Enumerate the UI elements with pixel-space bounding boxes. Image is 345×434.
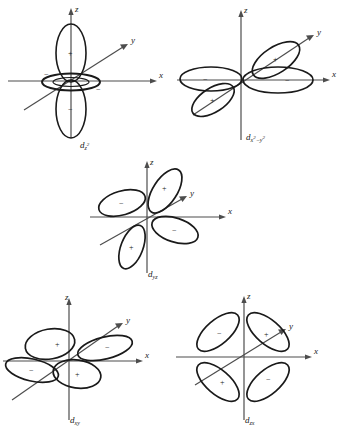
axis-label-y: y <box>130 35 135 45</box>
sign-lobe-upper-right: + <box>162 184 167 193</box>
sign-torus-right: − <box>96 85 101 94</box>
axis-label-z: z <box>149 157 154 167</box>
sign-lobe-upper-right: + <box>273 55 278 64</box>
sign-lobe-upper-left: − <box>119 199 124 208</box>
axis-label-x: x <box>227 206 232 216</box>
orbital-panel-dxy: + − − + z y x dxy <box>0 290 173 434</box>
axis-label-x: x <box>331 69 336 79</box>
sign-lobe-lower-left: + <box>210 96 215 105</box>
axis-z-arrowhead <box>144 161 149 168</box>
axis-label-x: x <box>313 346 318 356</box>
sign-lobe-left: − <box>29 366 34 375</box>
sign-lobe-lower-right: − <box>172 226 177 235</box>
axis-y-arrowhead <box>179 196 187 202</box>
orbital-diagram-dz2: + − − − z y x dz2 <box>0 0 173 152</box>
axis-x-arrowhead <box>323 77 330 82</box>
axis-label-z: z <box>243 5 248 15</box>
orbital-label-dxy: dxy <box>70 415 80 426</box>
sign-lobe-upper-right: + <box>264 330 269 339</box>
sign-lobe-up: + <box>68 49 73 58</box>
axis-label-x: x <box>144 350 149 360</box>
axis-z-arrowhead <box>238 10 243 17</box>
sign-lobe-right-y: − <box>105 343 110 352</box>
axis-label-x: x <box>158 70 163 80</box>
orbital-label-dzx: dzx <box>245 415 255 426</box>
orbital-diagram-dx2-y2: + + − − z y x dx2−y2 <box>173 0 345 152</box>
sign-lobe-down: − <box>68 105 73 114</box>
axis-y-arrowhead <box>120 44 128 50</box>
axis-y-arrowhead <box>115 323 123 329</box>
axis-label-y: y <box>288 321 293 331</box>
sign-lobe-lower-left: + <box>220 378 225 387</box>
orbital-label-dz2: dz2 <box>80 140 90 151</box>
axis-z-arrowhead <box>68 8 73 15</box>
axis-label-y: y <box>125 315 130 325</box>
axis-x-arrowhead <box>219 214 226 219</box>
axis-x-arrowhead <box>150 78 157 83</box>
orbital-panel-dz2: + − − − z y x dz2 <box>0 0 173 152</box>
sign-lobe-lower-center: + <box>75 370 80 379</box>
sign-torus-left: − <box>44 70 49 79</box>
axis-y-line <box>24 47 123 110</box>
axis-label-z: z <box>74 4 79 14</box>
orbital-label-dx2-y2: dx2−y2 <box>246 132 265 143</box>
orbital-panel-dyz: + − − + z y x dyz <box>86 155 259 283</box>
axis-label-y: y <box>316 27 321 37</box>
sign-lobe-upper-left: − <box>217 329 222 338</box>
orbital-label-dyz: dyz <box>148 269 158 280</box>
axis-x-arrowhead <box>305 354 312 359</box>
sign-lobe-right: − <box>285 76 290 85</box>
axis-label-z: z <box>64 292 69 302</box>
axis-label-y: y <box>189 188 194 198</box>
axis-x-arrowhead <box>136 358 143 363</box>
orbital-panel-dx2-y2: + + − − z y x dx2−y2 <box>173 0 345 152</box>
sign-lobe-upper-left: + <box>55 340 60 349</box>
axis-y-arrowhead <box>306 35 314 41</box>
sign-lobe-lower-right: − <box>266 375 271 384</box>
sign-lobe-lower-left: + <box>129 243 134 252</box>
orbital-diagram-dyz: + − − + z y x dyz <box>86 155 259 283</box>
orbital-diagram-dzx: − + + − z y x dzx <box>173 290 345 434</box>
orbital-panel-dzx: − + + − z y x dzx <box>173 290 345 434</box>
d-orbitals-figure: + − − − z y x dz2 + + <box>0 0 345 434</box>
axis-label-z: z <box>246 291 251 301</box>
axis-z-arrowhead <box>241 296 246 303</box>
sign-lobe-left: − <box>203 75 208 84</box>
orbital-diagram-dxy: + − − + z y x dxy <box>0 290 173 434</box>
